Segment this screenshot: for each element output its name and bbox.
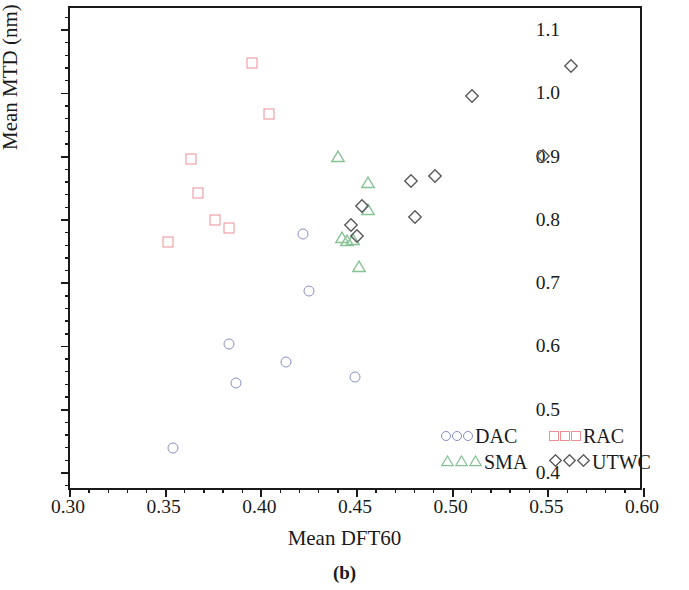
x-tick-minor [529, 488, 530, 493]
legend-marker-diamond-icon [549, 453, 590, 471]
x-tick-minor [299, 488, 300, 493]
data-point-utwc [564, 59, 578, 73]
data-point-rac [223, 223, 234, 234]
y-tick-major [61, 282, 70, 284]
y-tick-minor [65, 295, 70, 296]
y-tick-minor [65, 169, 70, 170]
data-point-utwc [404, 174, 418, 188]
y-tick-minor [65, 131, 70, 132]
y-tick-major [61, 29, 70, 31]
x-tick-minor [586, 488, 587, 493]
x-tick-minor [146, 488, 147, 493]
figure-caption: (b) [0, 562, 689, 584]
figure-panel: 0.40.50.60.70.80.91.01.1 Mean MTD (nm) M… [0, 0, 689, 590]
y-tick-minor [65, 333, 70, 334]
data-point-rac [185, 154, 196, 165]
y-tick-minor [65, 181, 70, 182]
legend-marker-circle-icon [441, 431, 473, 441]
x-tick-minor [318, 488, 319, 493]
legend-entry-dac[interactable]: DAC [441, 424, 517, 448]
data-point-sma [352, 260, 366, 272]
y-tick-label: 0.8 [536, 210, 560, 230]
y-tick-minor [65, 207, 70, 208]
x-tick-minor [242, 488, 243, 493]
legend-label: SMA [484, 452, 527, 472]
data-point-utwc [465, 89, 479, 103]
y-tick-major [61, 472, 70, 474]
y-tick-minor [65, 434, 70, 435]
x-tick-minor [414, 488, 415, 493]
y-tick-minor [65, 143, 70, 144]
y-tick-minor [65, 396, 70, 397]
x-tick-minor [280, 488, 281, 493]
y-axis-label: Mean MTD (nm) [0, 4, 23, 150]
y-tick-minor [65, 460, 70, 461]
y-tick-minor [65, 384, 70, 385]
y-tick-major [61, 219, 70, 221]
y-tick-minor [65, 371, 70, 372]
data-point-utwc [408, 210, 422, 224]
y-tick-label: 1.1 [536, 20, 560, 40]
y-tick-major [61, 156, 70, 158]
legend-label: DAC [475, 426, 517, 446]
data-point-rac [263, 108, 274, 119]
legend-entry-rac[interactable]: RAC [549, 424, 624, 448]
legend-entry-utwc[interactable]: UTWC [549, 450, 651, 474]
data-point-sma [361, 176, 375, 188]
x-tick-minor [184, 488, 185, 493]
y-tick-label: 0.6 [536, 337, 560, 357]
x-tick-minor [433, 488, 434, 493]
y-tick-minor [65, 485, 70, 486]
y-tick-minor [65, 270, 70, 271]
x-tick-minor [509, 488, 510, 493]
data-point-rac [210, 214, 221, 225]
legend-marker-triangle-icon [441, 453, 482, 471]
x-tick-label: 0.55 [529, 497, 563, 517]
data-point-utwc [355, 199, 369, 213]
x-tick-label: 0.30 [51, 497, 85, 517]
legend-label: RAC [583, 426, 624, 446]
legend-label: UTWC [592, 452, 651, 472]
y-tick-minor [65, 257, 70, 258]
y-tick-minor [65, 320, 70, 321]
y-tick-minor [65, 55, 70, 56]
y-tick-major [61, 346, 70, 348]
y-tick-minor [65, 42, 70, 43]
y-tick-minor [65, 67, 70, 68]
y-tick-minor [65, 194, 70, 195]
x-tick-minor [605, 488, 606, 493]
x-tick-minor [395, 488, 396, 493]
x-tick-minor [203, 488, 204, 493]
x-tick-minor [567, 488, 568, 493]
x-tick-minor [127, 488, 128, 493]
x-tick-minor [490, 488, 491, 493]
data-point-utwc [350, 229, 364, 243]
data-point-rac [246, 58, 257, 69]
data-point-dac [231, 378, 242, 389]
x-tick-minor [471, 488, 472, 493]
x-tick-label: 0.50 [434, 497, 468, 517]
y-tick-minor [65, 447, 70, 448]
y-tick-minor [65, 232, 70, 233]
x-tick-label: 0.40 [242, 497, 276, 517]
data-point-dac [168, 442, 179, 453]
y-tick-major [61, 409, 70, 411]
y-tick-label: 0.5 [536, 400, 560, 420]
y-tick-minor [65, 17, 70, 18]
data-point-rac [162, 237, 173, 248]
y-tick-minor [65, 308, 70, 309]
x-tick-label: 0.45 [338, 497, 372, 517]
y-tick-minor [65, 245, 70, 246]
x-tick-label: 0.35 [147, 497, 181, 517]
legend-marker-square-icon [549, 431, 581, 441]
x-tick-minor [375, 488, 376, 493]
data-point-rac [193, 187, 204, 198]
y-tick-minor [65, 105, 70, 106]
y-tick-minor [65, 422, 70, 423]
x-axis-label: Mean DFT60 [0, 526, 689, 551]
data-point-dac [298, 228, 309, 239]
y-tick-minor [65, 358, 70, 359]
y-tick-minor [65, 118, 70, 119]
legend-entry-sma[interactable]: SMA [441, 450, 527, 474]
x-tick-minor [88, 488, 89, 493]
